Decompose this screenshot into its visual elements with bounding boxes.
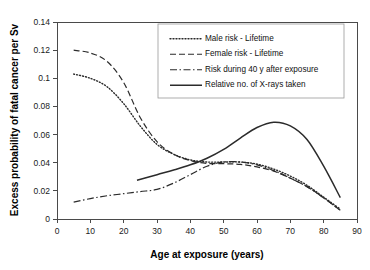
chart-container: 00.020.040.060.080.10.120.14 01020304050… — [0, 0, 370, 270]
x-tick-label: 30 — [152, 226, 162, 236]
x-tick-label: 80 — [319, 226, 329, 236]
y-tick-label: 0.1 — [38, 73, 50, 83]
x-tick-label: 60 — [252, 226, 262, 236]
x-axis-ticks: 0102030405060708090 — [55, 219, 362, 236]
chart-legend: Male risk - LifetimeFemale risk - Lifeti… — [158, 24, 344, 98]
x-tick-label: 0 — [55, 226, 60, 236]
legend-label-1: Female risk - Lifetime — [205, 49, 284, 58]
x-tick-label: 40 — [186, 226, 196, 236]
y-axis-ticks: 00.020.040.060.080.10.120.14 — [33, 17, 57, 224]
legend-label-3: Relative no. of X-rays taken — [205, 80, 306, 89]
y-tick-label: 0.02 — [33, 186, 50, 196]
x-tick-label: 70 — [286, 226, 296, 236]
series-line-2 — [74, 162, 341, 211]
x-axis-title: Age at exposure (years) — [150, 249, 263, 260]
y-tick-label: 0.08 — [33, 101, 50, 111]
y-tick-label: 0.04 — [33, 158, 50, 168]
x-tick-label: 90 — [352, 226, 362, 236]
y-tick-label: 0.14 — [33, 17, 50, 27]
y-tick-label: 0.12 — [33, 45, 50, 55]
legend-label-0: Male risk - Lifetime — [205, 34, 274, 43]
x-tick-label: 10 — [86, 226, 96, 236]
y-axis-title: Excess probability of fatal cancer per S… — [9, 23, 20, 216]
chart-plot-area: 00.020.040.060.080.10.120.14 01020304050… — [0, 0, 370, 270]
y-tick-label: 0 — [45, 214, 50, 224]
legend-label-2: Risk during 40 y after exposure — [205, 65, 319, 74]
x-tick-label: 20 — [119, 226, 129, 236]
x-tick-label: 50 — [219, 226, 229, 236]
y-tick-label: 0.06 — [33, 130, 50, 140]
